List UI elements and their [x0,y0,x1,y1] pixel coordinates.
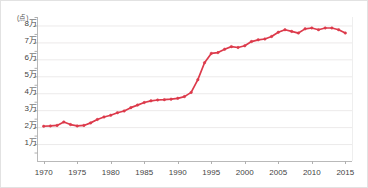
data-point [217,51,220,54]
data-point [297,32,300,35]
data-point [237,46,240,49]
data-point [277,31,280,34]
plot-area [1,1,368,188]
x-tick-label-1970: 1970 [35,169,53,177]
data-point [176,97,179,100]
data-point [290,30,293,33]
x-tick-label-2010: 2010 [303,169,321,177]
data-point [96,118,99,121]
y-tick-label-6万: 6万 [25,54,37,62]
data-point [284,28,287,31]
data-point [83,124,86,127]
gridlines [37,17,352,161]
data-point [56,124,59,127]
y-tick-label-2万: 2万 [25,122,37,130]
data-point [190,91,193,94]
plot-background [37,17,352,161]
data-point [103,116,106,119]
data-point [223,48,226,51]
data-point [250,40,253,43]
data-point [76,125,79,128]
data-point [170,98,173,101]
data-point [130,106,133,109]
data-point [337,28,340,31]
data-point [89,122,92,125]
y-tick-label-7万: 7万 [25,37,37,45]
data-point [143,101,146,104]
data-point [304,28,307,31]
x-tick-label-1975: 1975 [68,169,86,177]
data-point [344,32,347,35]
data-point [156,99,159,102]
data-point [136,104,139,107]
data-point [317,28,320,31]
data-point [230,45,233,48]
chart-figure: (点) 1万2万3万4万5万6万7万8万 1970197519801985199… [0,0,368,188]
y-tick-label-8万: 8万 [25,20,37,28]
x-tick-label-1990: 1990 [169,169,187,177]
y-tick-label-5万: 5万 [25,71,37,79]
y-axis-tick-labels: 1万2万3万4万5万6万7万8万 [11,1,37,188]
x-tick-label-1980: 1980 [102,169,120,177]
data-point [116,111,119,114]
x-tick-label-2000: 2000 [236,169,254,177]
data-point [311,27,314,30]
y-tick-label-4万: 4万 [25,88,37,96]
data-point [257,39,260,42]
data-point [331,27,334,30]
data-point [123,110,126,113]
data-point [244,45,247,48]
x-tick-label-1985: 1985 [135,169,153,177]
data-point [183,95,186,98]
data-point [49,125,52,128]
x-tick-label-2015: 2015 [336,169,354,177]
data-point [42,125,45,128]
data-point [210,52,213,55]
x-tick-label-2005: 2005 [269,169,287,177]
line-chart-svg [1,1,368,188]
x-tick-label-1995: 1995 [202,169,220,177]
data-point [150,100,153,103]
y-tick-label-1万: 1万 [25,139,37,147]
data-point [109,114,112,117]
data-point [69,123,72,126]
data-point [264,38,267,41]
data-point [197,78,200,81]
y-tick-label-3万: 3万 [25,105,37,113]
data-point [324,27,327,30]
data-point [63,121,65,124]
data-point [270,35,273,38]
data-point [163,98,166,101]
data-point [203,61,206,64]
